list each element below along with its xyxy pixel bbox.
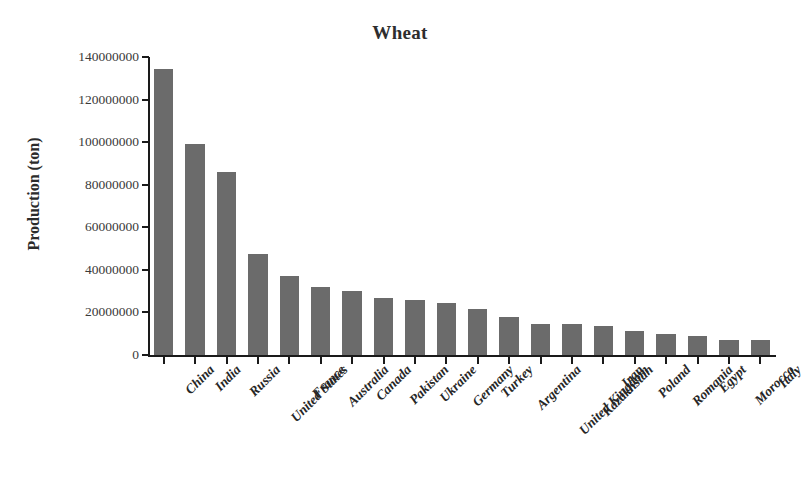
- y-tick-label: 140000000: [78, 49, 139, 65]
- y-axis-line: [148, 57, 150, 355]
- bar[interactable]: [751, 340, 770, 355]
- x-axis-label: France: [309, 362, 349, 402]
- bar[interactable]: [656, 334, 675, 355]
- bar[interactable]: [688, 336, 707, 355]
- y-tick-label: 120000000: [78, 92, 139, 108]
- y-tick-label: 100000000: [78, 134, 139, 150]
- bar[interactable]: [719, 340, 738, 355]
- y-tick-mark: [142, 226, 149, 228]
- y-tick-label: 0: [132, 347, 139, 363]
- y-axis-title: Production (ton): [25, 94, 43, 294]
- bar[interactable]: [405, 300, 424, 355]
- y-tick-label: 40000000: [85, 262, 139, 278]
- bar[interactable]: [311, 287, 330, 355]
- y-tick-mark: [142, 184, 149, 186]
- y-tick-mark: [142, 311, 149, 313]
- x-axis-label: Argentina: [534, 362, 585, 413]
- bar[interactable]: [437, 303, 456, 355]
- y-tick-label: 60000000: [85, 219, 139, 235]
- y-tick-mark: [142, 141, 149, 143]
- x-axis-label: China: [182, 362, 218, 398]
- bar[interactable]: [217, 172, 236, 355]
- bar[interactable]: [625, 331, 644, 355]
- y-tick-mark: [142, 99, 149, 101]
- bar[interactable]: [499, 317, 518, 355]
- bar[interactable]: [248, 254, 267, 355]
- bar[interactable]: [342, 291, 361, 355]
- y-tick-label: 80000000: [85, 177, 139, 193]
- x-axis-label: Poland: [654, 362, 693, 401]
- y-tick-mark: [142, 269, 149, 271]
- bar[interactable]: [374, 298, 393, 355]
- bar[interactable]: [185, 144, 204, 355]
- y-tick-mark: [142, 354, 149, 356]
- bar[interactable]: [280, 276, 299, 355]
- bar[interactable]: [562, 324, 581, 355]
- y-tick-mark: [142, 56, 149, 58]
- bar[interactable]: [154, 69, 173, 355]
- x-axis-category-labels: ChinaIndiaRussiaUnited StatesFranceAustr…: [148, 362, 788, 492]
- x-axis-label: Russia: [245, 362, 283, 400]
- bar[interactable]: [594, 326, 613, 355]
- chart-title: Wheat: [300, 22, 500, 44]
- x-axis-line: [148, 355, 776, 357]
- y-tick-label: 20000000: [85, 304, 139, 320]
- plot-area: 1400000001200000001000000008000000060000…: [148, 57, 776, 355]
- x-axis-label: India: [212, 362, 245, 395]
- bar[interactable]: [468, 309, 487, 355]
- bar[interactable]: [531, 324, 550, 356]
